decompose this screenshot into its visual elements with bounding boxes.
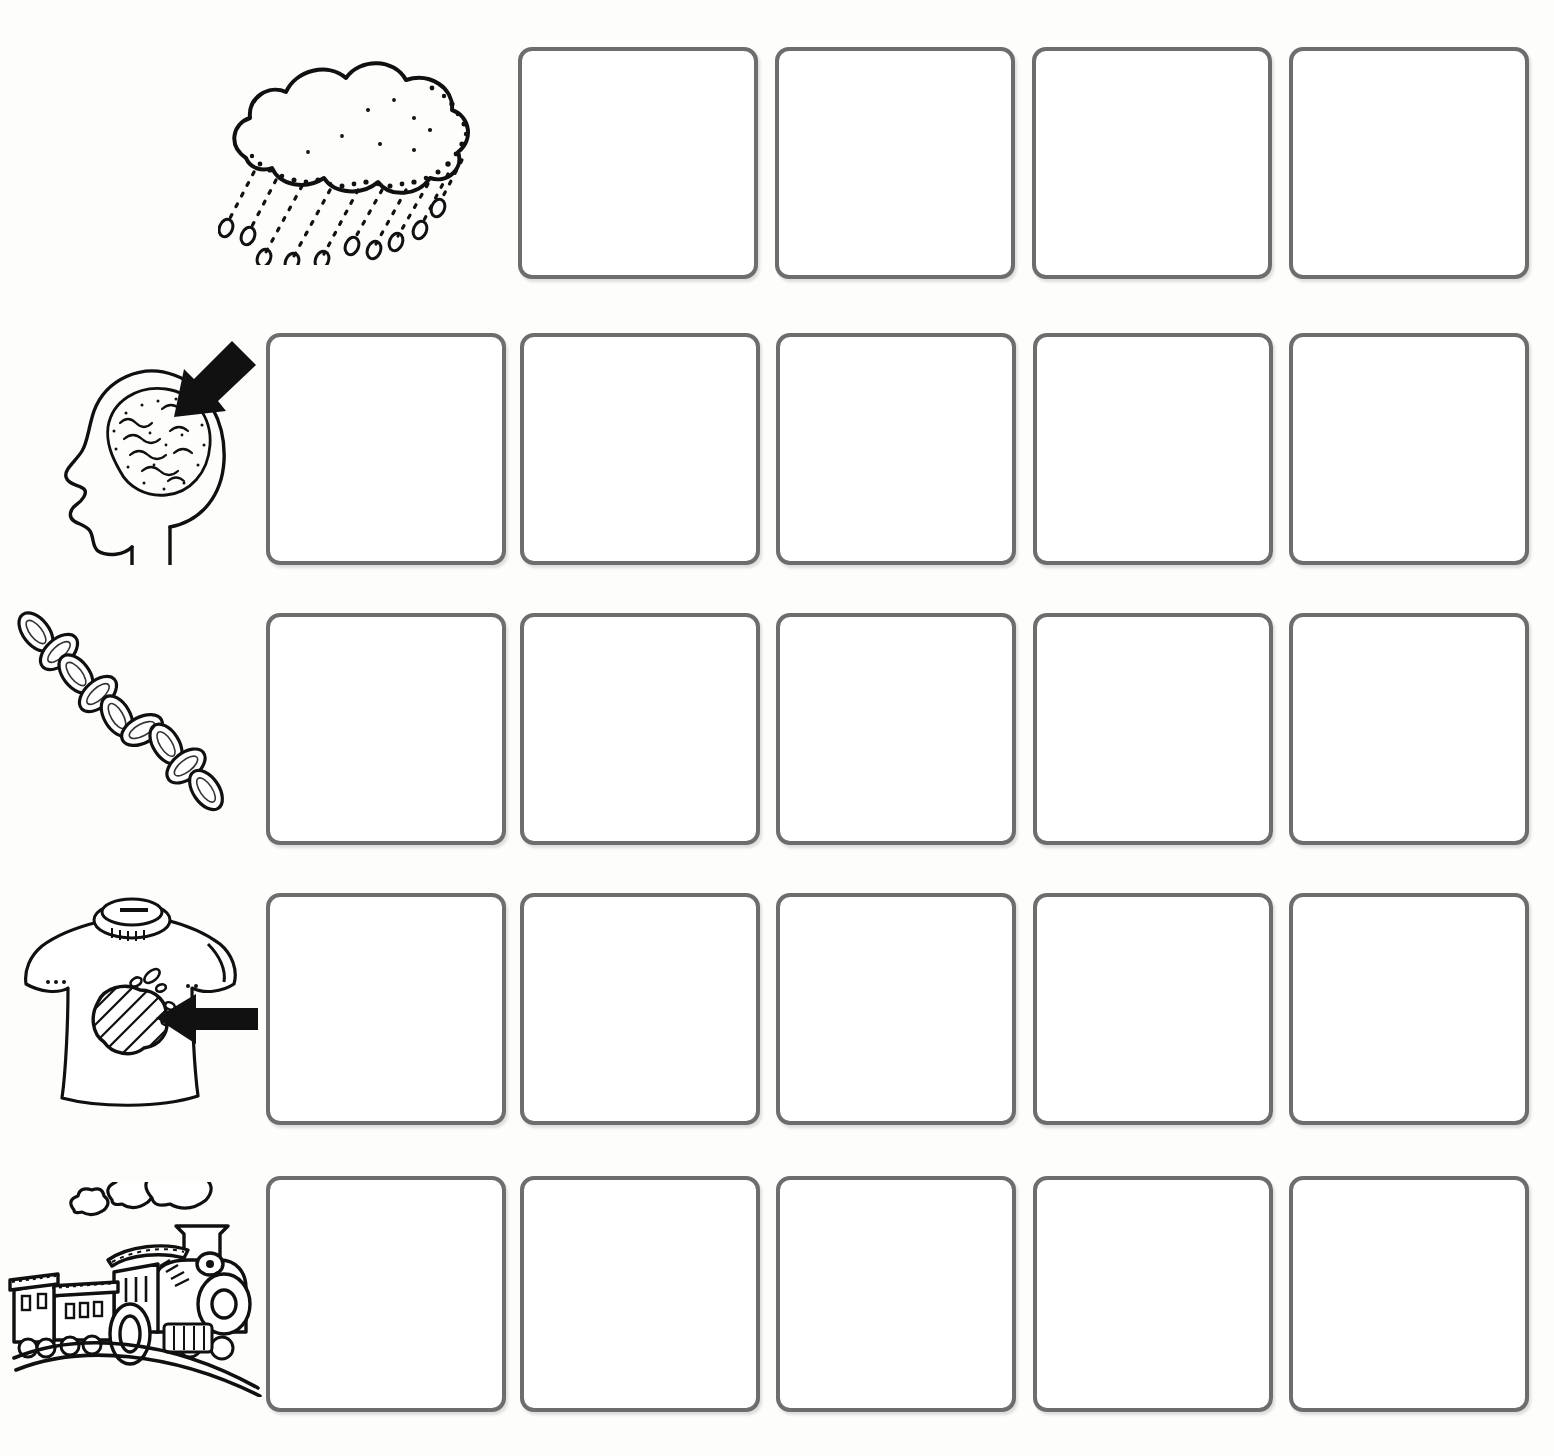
answer-box[interactable] [1289, 613, 1529, 845]
answer-box[interactable] [518, 47, 758, 279]
answer-box[interactable] [1033, 613, 1273, 845]
stained-tshirt-arrow-icon [20, 890, 260, 1120]
answer-box[interactable] [776, 1176, 1016, 1412]
answer-box[interactable] [520, 1176, 760, 1412]
answer-box[interactable] [266, 1176, 506, 1412]
answer-box[interactable] [1033, 893, 1273, 1125]
answer-box[interactable] [1033, 1176, 1273, 1412]
answer-box[interactable] [1289, 333, 1529, 565]
answer-box[interactable] [266, 613, 506, 845]
answer-box[interactable] [1289, 893, 1529, 1125]
rain-cloud-icon [218, 40, 483, 265]
worksheet-row-stained-shirt [0, 860, 1554, 1140]
answer-box[interactable] [1289, 47, 1529, 279]
answer-box[interactable] [520, 893, 760, 1125]
answer-box[interactable] [776, 613, 1016, 845]
answer-box[interactable] [520, 613, 760, 845]
head-brain-arrow-icon [50, 335, 260, 565]
answer-box[interactable] [776, 333, 1016, 565]
answer-box[interactable] [520, 333, 760, 565]
worksheet-row-rain-cloud [0, 0, 1554, 300]
steam-train-icon [8, 1182, 270, 1397]
answer-box[interactable] [266, 333, 506, 565]
answer-box[interactable] [266, 893, 506, 1125]
answer-box[interactable] [1289, 1176, 1529, 1412]
worksheet-row-chain [0, 580, 1554, 860]
worksheet-page [0, 0, 1554, 1456]
answer-box[interactable] [1032, 47, 1272, 279]
worksheet-row-train [0, 1140, 1554, 1456]
answer-box[interactable] [1033, 333, 1273, 565]
answer-box[interactable] [776, 893, 1016, 1125]
chain-icon [14, 610, 239, 825]
answer-box[interactable] [775, 47, 1015, 279]
worksheet-row-brain-head [0, 300, 1554, 580]
